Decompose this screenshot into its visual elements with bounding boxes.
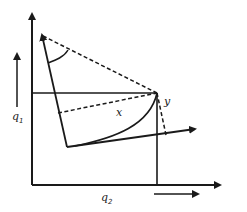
- y-label: y: [163, 95, 171, 108]
- q2-label: q2: [101, 191, 113, 206]
- rotated-y-axis: [42, 35, 67, 147]
- rotation-diagram: q1 q2 x y: [0, 0, 247, 212]
- angle-arc: [48, 50, 68, 63]
- q1-label: q1: [12, 110, 24, 125]
- dashed-line-top-to-p: [43, 36, 157, 93]
- dashed-line-x-projection: [58, 93, 157, 113]
- x-label: x: [116, 106, 123, 119]
